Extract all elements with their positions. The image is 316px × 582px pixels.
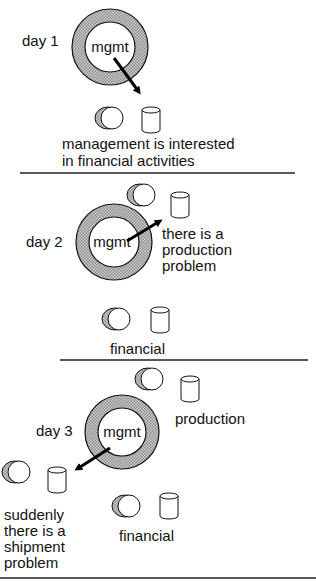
panel-day-1: day 1 mgmt management is interested in f… (22, 9, 235, 169)
caption-line: problem (4, 554, 58, 571)
financial-entity (95, 107, 160, 133)
caption-line: production (162, 241, 232, 258)
database-icon (171, 192, 189, 218)
caption-line: in financial activities (62, 152, 195, 169)
center-label: mgmt (103, 423, 141, 440)
process-icon (95, 107, 123, 129)
financial-entity: financial (112, 493, 178, 544)
process-icon (135, 368, 163, 390)
shipment-entity (2, 461, 66, 493)
database-icon (142, 107, 160, 133)
panel-day-3: day 3 mgmt production (2, 368, 245, 571)
day-label: day 3 (36, 422, 73, 439)
day-label: day 2 (26, 233, 63, 250)
database-icon (181, 376, 199, 402)
caption-line: management is interested (62, 135, 235, 152)
entity-label: financial (119, 527, 174, 544)
process-icon (102, 308, 130, 330)
caption-line: shipment (4, 538, 66, 555)
database-icon (151, 307, 169, 333)
entity-label: production (175, 410, 245, 427)
panel-day-2: day 2 mgmt there is a production problem (26, 184, 232, 357)
database-icon (48, 467, 66, 493)
diagram-canvas: day 1 mgmt management is interested in f… (0, 0, 316, 582)
entity-label: financial (110, 340, 165, 357)
database-icon (160, 493, 178, 519)
process-icon (2, 461, 30, 483)
caption-line: suddenly (4, 506, 65, 523)
caption-line: problem (162, 257, 216, 274)
center-label: mgmt (93, 233, 131, 250)
process-icon (112, 495, 140, 517)
process-icon (127, 184, 155, 206)
day-label: day 1 (22, 32, 59, 49)
center-label: mgmt (91, 38, 129, 55)
caption-line: there is a (4, 522, 66, 539)
financial-entity: financial (102, 307, 169, 357)
caption-line: there is a (162, 225, 224, 242)
